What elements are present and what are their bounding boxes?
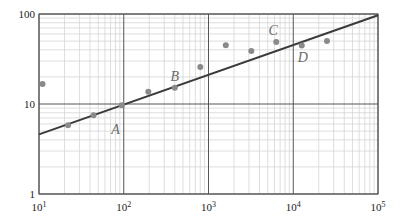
point-label-a: A <box>110 122 120 137</box>
data-point <box>91 112 97 118</box>
y-tick-label: 1 <box>30 188 36 200</box>
data-point <box>223 42 229 48</box>
data-point <box>248 48 254 54</box>
x-axis-tick-labels: 101102103104105 <box>32 200 386 213</box>
data-point <box>197 64 203 70</box>
y-axis-tick-labels: 110100 <box>19 8 36 200</box>
log-log-chart: 110100 101102103104105 ABCD <box>0 0 406 224</box>
data-point <box>324 38 330 44</box>
x-tick-label: 103 <box>201 200 216 213</box>
data-point <box>119 102 125 108</box>
data-point <box>299 42 305 48</box>
point-label-c: C <box>269 23 279 38</box>
point-label-d: D <box>297 50 308 65</box>
point-label-b: B <box>170 69 179 84</box>
data-point <box>273 39 279 45</box>
y-tick-label: 100 <box>19 8 36 20</box>
x-tick-label: 105 <box>371 200 386 213</box>
data-point <box>65 122 71 128</box>
x-tick-label: 102 <box>116 200 131 213</box>
data-point <box>40 81 46 87</box>
y-tick-label: 10 <box>24 98 36 110</box>
data-point <box>145 89 151 95</box>
x-tick-label: 104 <box>286 200 301 213</box>
data-point <box>172 85 178 91</box>
x-tick-label: 101 <box>32 200 47 213</box>
